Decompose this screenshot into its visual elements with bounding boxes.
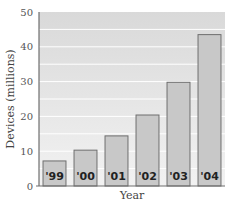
y-tick-label: 50	[20, 7, 33, 18]
bar	[198, 35, 221, 186]
bar-group: '01	[105, 136, 128, 186]
bar-group: '03	[167, 82, 190, 186]
x-axis-title: Year	[119, 189, 145, 202]
bar-chart: '99'00'01'02'03'04 01020304050 Devices (…	[0, 0, 233, 205]
bar-group: '04	[198, 35, 221, 186]
bar-group: '02	[136, 115, 159, 186]
y-axis-title: Devices (millions)	[4, 49, 17, 148]
y-tick-labels: 01020304050	[20, 7, 33, 192]
y-tick-label: 40	[20, 41, 33, 52]
y-tick-label: 20	[20, 111, 33, 122]
bar-group: '00	[74, 150, 97, 186]
bar-label: '00	[76, 170, 95, 183]
bar-label: '03	[169, 170, 188, 183]
y-tick-label: 30	[20, 76, 33, 87]
bar-label: '04	[200, 170, 219, 183]
bar-label: '02	[138, 170, 157, 183]
y-tick-label: 10	[20, 146, 33, 157]
bar-group: '99	[43, 161, 66, 186]
y-tick-label: 0	[27, 181, 33, 192]
bar-label: '99	[45, 170, 64, 183]
bar-label: '01	[107, 170, 126, 183]
